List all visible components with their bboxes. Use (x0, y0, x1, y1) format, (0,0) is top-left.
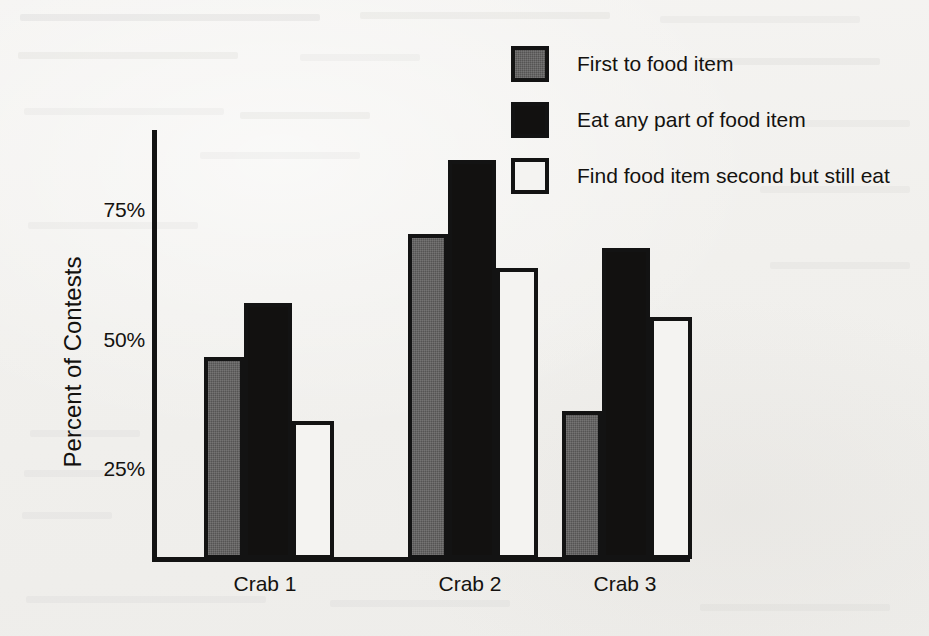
legend-swatch-white-square-icon (511, 158, 549, 194)
legend-label-find-food-item-second-but-still-eat: Find food item second but still eat (577, 164, 890, 188)
x-category-label-crab-3: Crab 3 (593, 572, 656, 596)
legend-swatch-gray-square-icon (511, 46, 549, 82)
bar-crab-1-first-to-food-item (204, 357, 244, 559)
x-category-label-crab-2: Crab 2 (438, 572, 501, 596)
legend-label-first-to-food-item: First to food item (577, 52, 733, 76)
bar-crab-3-eat-any-part-of-food-item (602, 248, 650, 559)
legend-item-eat-any-part-of-food-item: Eat any part of food item (511, 92, 911, 148)
x-category-label-crab-1: Crab 1 (233, 572, 296, 596)
bar-chart: Percent of Contests 75% 50% 25% Crab 1 C… (0, 0, 929, 636)
y-tick-label-75: 75% (40, 198, 145, 222)
y-tick-label-25: 25% (40, 457, 145, 481)
legend: First to food item Eat any part of food … (511, 36, 911, 204)
bar-crab-1-find-food-item-second-but-still-eat (292, 421, 334, 559)
legend-label-eat-any-part-of-food-item: Eat any part of food item (577, 108, 806, 132)
legend-item-find-food-item-second-but-still-eat: Find food item second but still eat (511, 148, 911, 204)
legend-item-first-to-food-item: First to food item (511, 36, 911, 92)
y-tick-label-50: 50% (40, 328, 145, 352)
bar-crab-2-first-to-food-item (408, 234, 448, 559)
bar-crab-3-find-food-item-second-but-still-eat (650, 317, 692, 559)
y-axis-tick-labels: 75% 50% 25% (40, 0, 145, 636)
bar-crab-1-eat-any-part-of-food-item (244, 303, 292, 559)
scanned-chart-page: Percent of Contests 75% 50% 25% Crab 1 C… (0, 0, 929, 636)
bar-crab-2-find-food-item-second-but-still-eat (496, 268, 538, 559)
bar-crab-2-eat-any-part-of-food-item (448, 160, 496, 559)
legend-swatch-black-square-icon (511, 102, 549, 138)
bar-crab-3-first-to-food-item (562, 411, 602, 559)
